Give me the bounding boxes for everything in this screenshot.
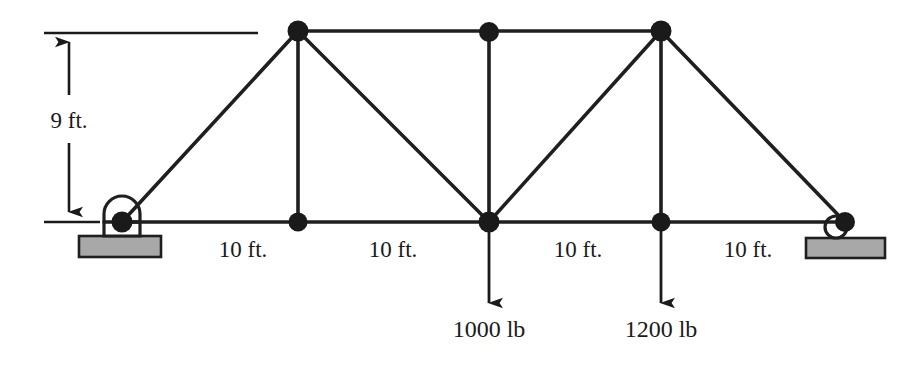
truss-members-group bbox=[122, 31, 845, 222]
bay-3-label: 10 ft. bbox=[554, 237, 603, 262]
member-diagonal-F-C bbox=[298, 31, 489, 222]
member-diagonal-H-C bbox=[489, 31, 661, 222]
load-1200lb-label: 1200 lb bbox=[625, 316, 698, 342]
bay-2-label: 10 ft. bbox=[369, 237, 418, 262]
bay-4-label: 10 ft. bbox=[724, 237, 773, 262]
node-F bbox=[288, 21, 309, 42]
load-1200lb-group: 1200 lb bbox=[625, 226, 698, 342]
bay-labels-group: 10 ft. 10 ft. 10 ft. 10 ft. bbox=[219, 237, 773, 262]
node-H bbox=[651, 21, 672, 42]
member-diagonal-A-F bbox=[122, 31, 298, 222]
truss-nodes-group bbox=[112, 21, 856, 233]
member-diagonal-H-E bbox=[661, 31, 845, 222]
height-dimension-label: 9 ft. bbox=[50, 108, 87, 133]
node-B bbox=[289, 213, 308, 232]
bay-1-label: 10 ft. bbox=[219, 237, 268, 262]
height-dimension-group: 9 ft. bbox=[44, 33, 258, 222]
roller-support-base-plate bbox=[806, 238, 885, 258]
truss-diagram: 9 ft. bbox=[0, 0, 909, 369]
node-E-roller bbox=[835, 212, 855, 232]
load-1000lb-group: 1000 lb bbox=[453, 226, 526, 342]
truss-diagram-canvas: 9 ft. bbox=[0, 0, 909, 369]
pin-support-base-plate bbox=[79, 236, 161, 257]
node-G bbox=[479, 22, 499, 42]
load-1000lb-label: 1000 lb bbox=[453, 316, 526, 342]
node-A-pin bbox=[112, 212, 133, 233]
